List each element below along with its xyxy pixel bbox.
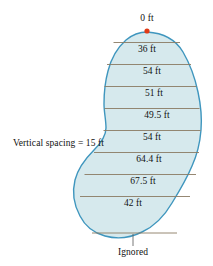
vertical-spacing-label: Vertical spacing = 15 ft [13,139,104,149]
measurement-label-4: 49.5 ft [144,111,170,121]
measurement-label-2: 54 ft [143,67,161,77]
measurement-label-7: 67.5 ft [130,177,156,187]
measurement-label-3: 51 ft [145,89,163,99]
measurement-label-5: 54 ft [143,133,161,143]
measurement-label-6: 64.4 ft [136,155,162,165]
measurement-label-1: 36 ft [138,45,156,55]
ignored-label: Ignored [118,248,148,258]
apex-label: 0 ft [140,14,153,24]
apex-point-marker [144,28,149,33]
region-diagram [0,0,213,266]
area-estimation-figure: 0 ft 36 ft 54 ft 51 ft 49.5 ft 54 ft 64.… [0,0,213,266]
measurement-label-8: 42 ft [124,199,142,209]
